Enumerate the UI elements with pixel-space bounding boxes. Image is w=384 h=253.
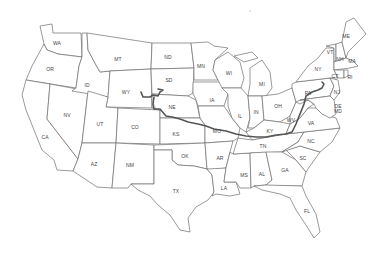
- state-label-sc: SC: [299, 155, 306, 161]
- state-label-nc: NC: [307, 138, 314, 144]
- state-label-wv: WV: [287, 117, 295, 123]
- state-label-me: ME: [342, 33, 350, 39]
- state-label-az: AZ: [91, 161, 98, 167]
- stray-dot: [250, 11, 251, 12]
- state-label-tn: TN: [260, 143, 267, 149]
- state-label-ca: CA: [41, 134, 48, 140]
- state-label-al: AL: [259, 171, 265, 177]
- state-label-sd: SD: [165, 77, 172, 83]
- state-label-ny: NY: [314, 66, 321, 72]
- state-label-md: MD: [334, 108, 342, 114]
- state-label-pa: PA: [305, 90, 312, 96]
- state-label-ar: AR: [216, 155, 223, 161]
- state-label-oh: OH: [274, 103, 282, 109]
- state-label-va: VA: [308, 120, 315, 126]
- state-label-tx: TX: [173, 188, 180, 194]
- state-label-nv: NV: [63, 112, 70, 118]
- state-label-wy: WY: [122, 89, 130, 95]
- state-ks: [160, 118, 205, 144]
- state-label-la: LA: [221, 185, 227, 191]
- us-map-svg: [0, 0, 384, 253]
- state-label-co: CO: [131, 124, 139, 130]
- state-label-id: ID: [84, 82, 89, 88]
- state-label-mt: MT: [114, 56, 121, 62]
- state-label-ok: OK: [181, 153, 188, 159]
- state-mt: [87, 33, 152, 72]
- state-label-ga: GA: [281, 167, 288, 173]
- state-label-ms: MS: [240, 172, 248, 178]
- state-label-nj: NJ: [334, 89, 340, 95]
- state-label-vt: VT: [327, 49, 334, 55]
- state-nd: [151, 43, 194, 69]
- us-map: [0, 0, 384, 253]
- state-label-ia: IA: [210, 97, 215, 103]
- state-label-ut: UT: [97, 121, 104, 127]
- state-outlines: [22, 18, 366, 238]
- state-label-nm: NM: [126, 162, 134, 168]
- state-label-mo: MO: [213, 128, 221, 134]
- state-label-ct: CT: [332, 73, 339, 79]
- state-label-mi: MI: [259, 81, 265, 87]
- state-label-ri: RI: [347, 74, 352, 80]
- state-label-wa: WA: [53, 40, 61, 46]
- state-label-ne: NE: [168, 104, 175, 110]
- state-label-fl: FL: [304, 208, 310, 214]
- state-label-il: IL: [238, 113, 242, 119]
- state-label-mn: MN: [197, 63, 205, 69]
- state-label-in: IN: [253, 109, 258, 115]
- state-label-nh: NH: [336, 56, 343, 62]
- state-label-or: OR: [46, 66, 54, 72]
- state-label-nd: ND: [164, 54, 171, 60]
- state-fl: [254, 185, 320, 238]
- state-label-ky: KY: [267, 128, 274, 134]
- state-label-wi: WI: [226, 70, 232, 76]
- state-label-ks: KS: [173, 131, 180, 137]
- state-label-ma: MA: [348, 58, 356, 64]
